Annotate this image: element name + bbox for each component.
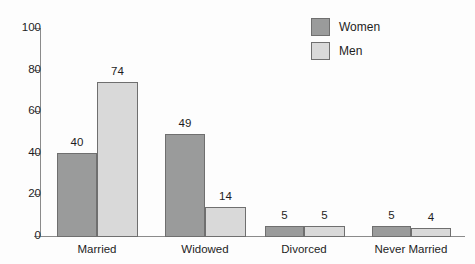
bar-widowed-men — [205, 207, 246, 237]
x-axis-label-never-married: Never Married — [351, 244, 471, 256]
bar-divorced-women — [265, 226, 304, 237]
legend-swatch-women — [311, 18, 330, 36]
bar-chart: 100806040200 407449145554 MarriedWidowed… — [0, 0, 475, 264]
legend-label: Men — [339, 45, 362, 57]
bar-widowed-women — [165, 134, 205, 237]
y-axis-tick-label: 20 — [11, 188, 41, 200]
bar-value-label: 4 — [401, 212, 461, 224]
bar-married-men — [97, 82, 138, 237]
legend-swatch-men — [311, 42, 330, 60]
bar-married-women — [57, 153, 97, 237]
y-axis-tick-label: 0 — [11, 230, 41, 242]
plot-area: 100806040200 407449145554 MarriedWidowed… — [0, 0, 475, 264]
bar-value-label: 14 — [195, 191, 256, 203]
bar-never-married-women — [372, 226, 411, 237]
bar-value-label: 5 — [294, 210, 355, 222]
bar-never-married-men — [411, 228, 451, 237]
bar-value-label: 49 — [155, 118, 215, 130]
y-axis-tick-label: 100 — [11, 22, 41, 34]
bar-value-label: 40 — [47, 137, 107, 149]
y-axis-tick-label: 40 — [11, 147, 41, 159]
y-axis-line — [40, 28, 41, 236]
x-axis-label-divorced: Divorced — [244, 244, 364, 256]
bar-divorced-men — [304, 226, 345, 237]
y-axis-tick-label: 60 — [11, 105, 41, 117]
legend-label: Women — [339, 21, 380, 33]
bar-value-label: 74 — [87, 66, 148, 78]
x-axis-label-married: Married — [37, 244, 157, 256]
y-axis-tick-label: 80 — [11, 64, 41, 76]
